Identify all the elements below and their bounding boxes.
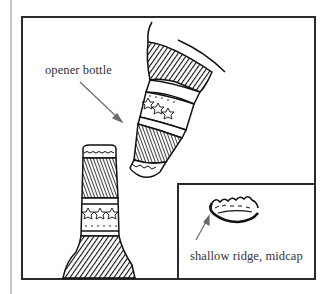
cap-arrow: [196, 216, 209, 240]
opener-bottle-label: opener bottle: [45, 63, 112, 78]
inset-caption: shallow ridge, midcap: [190, 249, 303, 264]
bottle-cap-icon: [210, 197, 258, 222]
